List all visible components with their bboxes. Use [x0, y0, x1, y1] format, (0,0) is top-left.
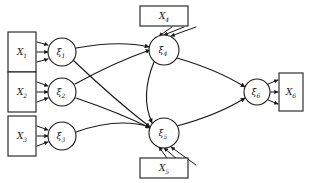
- latent-nodes-group: ξ1 ξ2 ξ3 ξ4: [48, 35, 270, 150]
- latent-node-xi3[interactable]: ξ3: [48, 122, 76, 150]
- observed-node-x1-subscript: 1: [23, 51, 27, 58]
- edge-xi4-xi5: [146, 62, 154, 123]
- latent-node-xi6[interactable]: ξ6: [244, 79, 270, 105]
- latent-node-xi1-subscript: 1: [62, 51, 66, 58]
- edge-xi4-xi6: [177, 58, 245, 87]
- latent-node-xi2[interactable]: ξ2: [48, 78, 76, 106]
- observed-node-x5[interactable]: X5: [140, 158, 188, 178]
- diagram-svg: X1 X2 X3 X4: [0, 0, 309, 183]
- measurement-edges-x3-xi3: [37, 126, 48, 146]
- observed-node-x4[interactable]: X4: [140, 6, 188, 26]
- path-diagram-canvas: X1 X2 X3 X4: [0, 0, 309, 183]
- edge-xi5-xi6: [177, 98, 245, 126]
- latent-node-xi3-subscript: 3: [62, 135, 66, 142]
- edge-xi1-xi4: [76, 44, 149, 48]
- latent-node-xi4[interactable]: ξ4: [149, 35, 179, 65]
- edge-xi1-xi5: [74, 61, 150, 127]
- observed-node-x4-subscript: 4: [164, 15, 169, 22]
- latent-node-xi1[interactable]: ξ1: [48, 38, 76, 66]
- observed-node-x5-subscript: 5: [165, 167, 169, 174]
- latent-node-xi5[interactable]: ξ5: [149, 118, 179, 148]
- observed-node-x6-subscript: 6: [292, 91, 296, 98]
- observed-node-x1[interactable]: X1: [8, 32, 36, 72]
- latent-node-xi2-subscript: 2: [61, 91, 66, 98]
- latent-node-xi4-subscript: 4: [163, 49, 168, 56]
- measurement-edges-x1-xi1: [37, 42, 48, 62]
- observed-node-x3-subscript: 3: [23, 135, 27, 142]
- latent-node-xi6-subscript: 6: [257, 91, 261, 98]
- observed-node-x2-subscript: 2: [22, 91, 27, 98]
- observed-node-x3[interactable]: X3: [8, 116, 36, 156]
- observed-node-x6[interactable]: X6: [279, 73, 303, 111]
- latent-node-xi5-subscript: 5: [164, 132, 168, 139]
- edge-xi2-xi4: [75, 50, 150, 84]
- observed-node-x2[interactable]: X2: [8, 72, 36, 112]
- edge-xi3-xi5: [76, 123, 150, 132]
- measurement-edges-x2-xi2: [37, 82, 48, 102]
